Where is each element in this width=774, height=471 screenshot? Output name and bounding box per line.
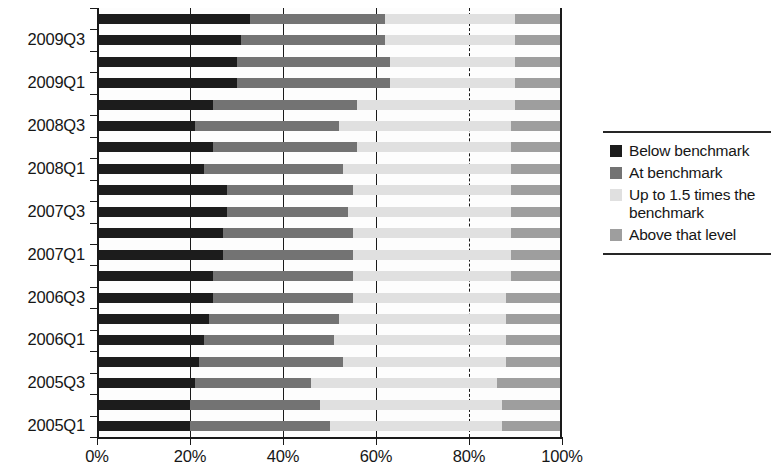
bar-segment	[190, 400, 320, 410]
bar-segment	[511, 121, 562, 131]
y-axis-tick	[90, 29, 97, 30]
bar-segment	[97, 314, 209, 324]
bar-row	[97, 207, 562, 217]
bar-row	[97, 164, 562, 174]
bar-segment	[353, 293, 506, 303]
bar-segment	[353, 185, 511, 195]
bar-segment	[515, 14, 562, 24]
y-axis-label-2007Q1: 2007Q1	[8, 245, 85, 264]
x-axis-label-100pct: 100%	[527, 447, 597, 466]
y-axis-label-2008Q1: 2008Q1	[8, 159, 85, 178]
bar-segment	[97, 121, 195, 131]
bar-segment	[97, 14, 250, 24]
y-axis-tick	[90, 308, 97, 309]
bar-segment	[213, 271, 353, 281]
bar-segment	[343, 164, 510, 174]
y-axis-label-2007Q3: 2007Q3	[8, 202, 85, 221]
x-axis-tick	[469, 437, 470, 445]
plot-area	[97, 8, 562, 437]
bar-segment	[357, 142, 510, 152]
bar-segment	[353, 250, 511, 260]
bar-segment	[213, 293, 353, 303]
bar-row	[97, 400, 562, 410]
bar-segment	[334, 335, 506, 345]
bar-segment	[97, 378, 195, 388]
y-axis-tick	[90, 394, 97, 395]
y-axis-label-2006Q1: 2006Q1	[8, 330, 85, 349]
bar-segment	[502, 421, 562, 431]
bar-segment	[237, 57, 390, 67]
bar-segment	[97, 335, 204, 345]
legend-item: Above that level	[610, 226, 765, 244]
bar-row	[97, 271, 562, 281]
bar-segment	[223, 228, 353, 238]
y-axis-tick	[90, 223, 97, 224]
bar-segment	[97, 228, 223, 238]
bar-segment	[515, 35, 562, 45]
x-axis-tick	[97, 437, 98, 445]
bar-row	[97, 357, 562, 367]
bar-segment	[511, 164, 562, 174]
bar-segment	[357, 100, 515, 110]
y-axis-label-2009Q3: 2009Q3	[8, 30, 85, 49]
legend-label: At benchmark	[629, 164, 722, 182]
legend-swatch-icon	[610, 189, 622, 201]
bar-segment	[511, 271, 562, 281]
y-axis-tick	[90, 330, 97, 331]
bar-segment	[515, 100, 562, 110]
bar-row	[97, 250, 562, 260]
bar-segment	[97, 100, 213, 110]
x-axis-label-0pct: 0%	[62, 447, 132, 466]
bar-segment	[97, 207, 227, 217]
bar-segment	[390, 78, 516, 88]
bar-row	[97, 335, 562, 345]
bar-segment	[502, 400, 562, 410]
stacked-bar-chart-figure: 2009Q32009Q12008Q32008Q12007Q32007Q12006…	[0, 0, 774, 471]
y-axis-tick	[90, 94, 97, 95]
bar-segment	[204, 164, 344, 174]
bar-segment	[339, 314, 506, 324]
bar-segment	[190, 421, 330, 431]
legend-swatch-icon	[610, 229, 622, 241]
bar-segment	[390, 57, 516, 67]
bar-segment	[353, 271, 511, 281]
y-axis-tick	[90, 158, 97, 159]
bar-segment	[97, 142, 213, 152]
bar-segment	[250, 14, 385, 24]
bar-segment	[97, 57, 237, 67]
y-axis-tick	[90, 72, 97, 73]
x-axis-line	[97, 437, 562, 439]
bar-segment	[97, 357, 199, 367]
bar-row	[97, 78, 562, 88]
bar-segment	[506, 293, 562, 303]
bar-segment	[97, 78, 237, 88]
x-axis-tick	[376, 437, 377, 445]
bar-segment	[511, 228, 562, 238]
x-axis-tick	[283, 437, 284, 445]
y-axis-label-2006Q3: 2006Q3	[8, 288, 85, 307]
bar-row	[97, 14, 562, 24]
y-axis-tick	[90, 351, 97, 352]
bar-segment	[97, 421, 190, 431]
y-axis-label-2005Q1: 2005Q1	[8, 416, 85, 435]
bar-segment	[311, 378, 497, 388]
x-axis-label-80pct: 80%	[434, 447, 504, 466]
bar-row	[97, 100, 562, 110]
bar-segment	[195, 121, 339, 131]
y-axis-tick	[90, 287, 97, 288]
bar-segment	[223, 250, 353, 260]
legend-item: At benchmark	[610, 164, 765, 182]
y-axis-tick	[90, 265, 97, 266]
bar-row	[97, 142, 562, 152]
legend-item: Below benchmark	[610, 142, 765, 160]
bar-segment	[97, 185, 227, 195]
bar-segment	[506, 335, 562, 345]
bar-segment	[339, 121, 511, 131]
bar-segment	[195, 378, 311, 388]
bar-segment	[385, 35, 515, 45]
bar-segment	[511, 207, 562, 217]
legend-label: Below benchmark	[629, 142, 749, 160]
y-axis-label-2008Q3: 2008Q3	[8, 116, 85, 135]
bar-row	[97, 314, 562, 324]
bar-segment	[213, 100, 357, 110]
